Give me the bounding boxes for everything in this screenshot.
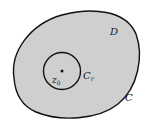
point-z0-dot [61, 70, 64, 73]
label-outer-contour-c: C [125, 92, 133, 103]
label-region-d: D [109, 26, 118, 37]
diagram-canvas: z0 Cr D C [0, 0, 149, 127]
contour-diagram: z0 Cr D C [0, 0, 149, 127]
